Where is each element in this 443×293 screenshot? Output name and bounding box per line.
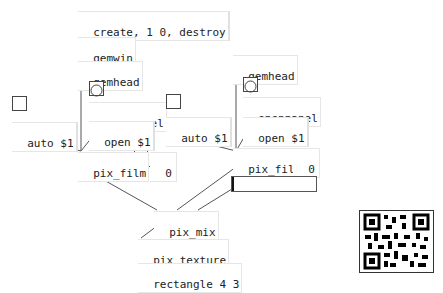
pix-mix-object[interactable]: pix_mix bbox=[154, 211, 219, 241]
rectangle-object[interactable]: rectangle 4 3 bbox=[138, 263, 242, 293]
mix-slider[interactable] bbox=[231, 176, 317, 192]
auto-left-message[interactable]: auto $1 bbox=[12, 122, 78, 152]
bang-circle-icon bbox=[90, 84, 103, 97]
gemhead-left-object[interactable]: gemhead bbox=[78, 61, 143, 91]
auto-right-message[interactable]: auto $1 bbox=[166, 117, 232, 147]
open-left-message[interactable]: open $1 bbox=[89, 121, 155, 151]
slider-handle[interactable] bbox=[232, 177, 234, 191]
qr-code bbox=[359, 210, 434, 273]
number-box-right[interactable]: 0 bbox=[293, 148, 320, 178]
pix-film-left-object[interactable]: pix_film bbox=[78, 152, 149, 182]
bang-circle-icon bbox=[244, 80, 257, 93]
open-right-message[interactable]: open $1 bbox=[243, 117, 309, 147]
bang-left[interactable] bbox=[89, 81, 104, 96]
auto-toggle-left[interactable] bbox=[12, 96, 27, 111]
number-box-left[interactable]: 0 bbox=[150, 152, 177, 182]
bang-right[interactable] bbox=[243, 77, 258, 92]
qr-code-icon bbox=[360, 211, 433, 272]
auto-toggle-right[interactable] bbox=[166, 94, 181, 109]
